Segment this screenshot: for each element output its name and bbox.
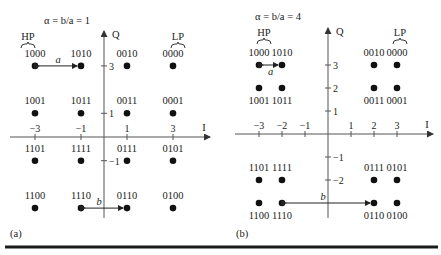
point-bit-label: 1110 <box>71 190 91 201</box>
panel-title: α = b/a = 1 <box>44 15 90 26</box>
hp-label: HP <box>257 27 271 38</box>
point-bit-label: 1001 <box>25 95 46 106</box>
constellation-point <box>124 63 131 70</box>
q-tick-label: 1 <box>333 106 338 117</box>
point-bit-label: 0010 <box>117 48 138 59</box>
point-bit-label: 0101 <box>163 143 184 154</box>
lp-brace-icon <box>393 38 407 44</box>
point-bit-label: 1001 <box>249 95 270 106</box>
constellation-point <box>279 200 286 207</box>
constellation-point <box>256 177 263 184</box>
point-bit-label: 1100 <box>25 190 46 201</box>
constellation-point <box>394 177 401 184</box>
panel-b-constellation: IQ−3−2−1123321−1−21000101000100000100110… <box>235 11 433 240</box>
point-bit-label: 1101 <box>249 162 270 173</box>
i-tick-label: 3 <box>395 120 400 131</box>
i-tick-label: −1 <box>300 120 311 131</box>
constellation-point <box>78 110 85 117</box>
point-bit-label: 0101 <box>387 162 408 173</box>
i-axis-label: I <box>425 119 429 130</box>
constellation-point <box>32 205 39 212</box>
q-tick-label: 2 <box>333 83 338 94</box>
constellation-point <box>394 200 401 207</box>
point-bit-label: 0010 <box>364 47 385 58</box>
i-tick-label: 2 <box>372 120 377 131</box>
point-bit-label: 0111 <box>364 162 384 173</box>
constellation-point <box>256 85 263 92</box>
panel-label: (b) <box>236 228 249 240</box>
point-bit-label: 0000 <box>387 47 408 58</box>
point-bit-label: 1011 <box>272 95 293 106</box>
point-bit-label: 1111 <box>71 143 91 154</box>
q-tick-label: 1 <box>109 108 114 119</box>
constellation-point <box>124 157 131 164</box>
q-tick-label: −2 <box>333 175 344 186</box>
q-tick-label: 3 <box>333 60 338 71</box>
point-bit-label: 0000 <box>163 48 184 59</box>
i-tick-label: −3 <box>30 123 41 134</box>
constellation-point <box>124 110 131 117</box>
q-tick-label: 3 <box>109 61 114 72</box>
constellation-point <box>371 62 378 69</box>
point-bit-label: 0110 <box>364 210 385 221</box>
point-bit-label: 0100 <box>387 210 408 221</box>
constellation-point <box>371 85 378 92</box>
constellation-point <box>78 157 85 164</box>
constellation-point <box>32 63 39 70</box>
b-distance-label: b <box>320 191 325 202</box>
point-bit-label: 1110 <box>272 210 292 221</box>
constellation-point <box>78 205 85 212</box>
qam-constellation-figure: IQ−3−11331−11000101000100000100110110011… <box>0 0 441 255</box>
q-axis-label: Q <box>112 29 120 40</box>
constellation-point <box>256 62 263 69</box>
q-tick-label: −1 <box>333 152 344 163</box>
hp-brace-icon <box>257 38 271 44</box>
constellation-point <box>170 63 177 70</box>
constellation-point <box>170 205 177 212</box>
i-tick-label: 1 <box>349 120 354 131</box>
point-bit-label: 0100 <box>163 190 184 201</box>
constellation-point <box>279 62 286 69</box>
constellation-point <box>78 63 85 70</box>
constellation-point <box>279 85 286 92</box>
constellation-point <box>256 200 263 207</box>
lp-label: LP <box>394 27 406 38</box>
point-bit-label: 1011 <box>71 95 92 106</box>
point-bit-label: 1010 <box>272 47 293 58</box>
i-tick-label: 3 <box>171 123 176 134</box>
constellation-point <box>394 62 401 69</box>
panel-title: α = b/a = 4 <box>255 11 302 22</box>
constellation-point <box>32 110 39 117</box>
i-tick-label: −2 <box>277 120 288 131</box>
point-bit-label: 1000 <box>249 47 270 58</box>
i-axis-label: I <box>202 122 206 133</box>
constellation-point <box>371 200 378 207</box>
b-distance-label: b <box>96 196 101 207</box>
lp-label: LP <box>172 31 184 42</box>
q-tick-label: −1 <box>109 156 120 167</box>
a-distance-label: a <box>55 54 60 65</box>
constellation-point <box>32 157 39 164</box>
i-tick-label: −3 <box>254 120 265 131</box>
panel-label: (a) <box>10 228 22 240</box>
q-axis-label: Q <box>336 26 344 37</box>
constellation-point <box>279 177 286 184</box>
point-bit-label: 1000 <box>25 48 46 59</box>
point-bit-label: 0110 <box>117 190 138 201</box>
point-bit-label: 0011 <box>364 95 385 106</box>
constellation-point <box>170 110 177 117</box>
i-tick-label: 1 <box>125 123 130 134</box>
point-bit-label: 0001 <box>387 95 408 106</box>
point-bit-label: 0001 <box>163 95 184 106</box>
i-tick-label: −1 <box>76 123 87 134</box>
constellation-point <box>170 157 177 164</box>
point-bit-label: 1111 <box>272 162 292 173</box>
constellation-point <box>371 177 378 184</box>
a-distance-label: a <box>268 66 273 77</box>
point-bit-label: 0011 <box>117 95 138 106</box>
constellation-point <box>394 85 401 92</box>
point-bit-label: 1010 <box>71 48 92 59</box>
hp-label: HP <box>21 31 35 42</box>
point-bit-label: 1101 <box>25 143 46 154</box>
panel-a-constellation: IQ−3−11331−11000101000100000100110110011… <box>10 15 210 240</box>
